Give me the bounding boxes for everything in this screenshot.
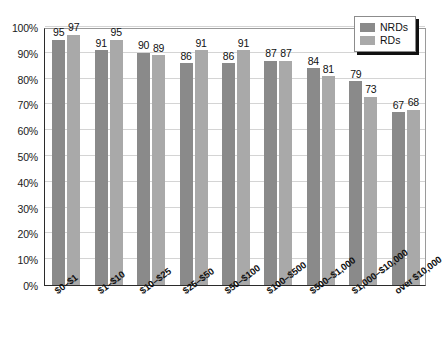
bar-value-label: 95 xyxy=(106,27,127,38)
bar-rds xyxy=(322,76,335,285)
bar-nrds xyxy=(307,68,320,285)
bar-rds xyxy=(67,35,80,285)
bar-group: 9089 xyxy=(137,29,165,285)
bar-rds xyxy=(237,50,250,285)
bar-value-label: 97 xyxy=(63,22,84,33)
bar-value-label: 91 xyxy=(191,38,212,49)
legend-label-rds: RDs xyxy=(380,35,400,46)
bar-nrds xyxy=(222,63,235,285)
legend-swatch-nrds-icon xyxy=(360,23,375,32)
y-axis: 0%10%20%30%40%50%60%70%80%90%100% xyxy=(0,28,42,286)
bar-group: 8481 xyxy=(307,29,335,285)
bar-value-label: 91 xyxy=(233,38,254,49)
bar-value-label: 87 xyxy=(275,48,296,59)
bar-rds xyxy=(152,55,165,285)
bar-value-label: 68 xyxy=(403,97,424,108)
bar-rds xyxy=(364,97,377,285)
legend-item-rds: RDs xyxy=(360,34,408,47)
bar-value-label: 73 xyxy=(360,84,381,95)
bar-value-label: 89 xyxy=(148,43,169,54)
y-axis-tick-label: 80% xyxy=(18,74,38,85)
bar-group: 8787 xyxy=(264,29,292,285)
bar-group: 9195 xyxy=(95,29,123,285)
plot-area: 959791959089869186918787848179736768 xyxy=(44,28,426,286)
y-axis-tick-label: 20% xyxy=(18,229,38,240)
y-axis-tick-label: 60% xyxy=(18,126,38,137)
y-axis-tick-label: 70% xyxy=(18,100,38,111)
bar-rds xyxy=(110,40,123,285)
bar-value-label: 81 xyxy=(318,64,339,75)
bar-nrds xyxy=(52,40,65,285)
y-axis-tick-label: 10% xyxy=(18,255,38,266)
bar-nrds xyxy=(264,61,277,285)
y-axis-tick-label: 40% xyxy=(18,178,38,189)
bar-nrds xyxy=(180,63,193,285)
y-axis-tick-label: 30% xyxy=(18,203,38,214)
bars-layer: 959791959089869186918787848179736768 xyxy=(45,29,425,285)
bar-rds xyxy=(279,61,292,285)
legend-swatch-rds-icon xyxy=(360,36,375,45)
y-axis-tick-label: 50% xyxy=(18,152,38,163)
bar-group: 8691 xyxy=(180,29,208,285)
bar-value-label: 86 xyxy=(176,51,197,62)
bar-nrds xyxy=(95,50,108,285)
bar-group: 6768 xyxy=(392,29,420,285)
y-axis-tick-label: 0% xyxy=(23,281,38,292)
x-axis: $0–$1$1–$10$10–$25$25–$50$50–$100$100–$5… xyxy=(44,288,426,346)
y-axis-tick-label: 100% xyxy=(12,23,38,34)
bar-group: 9597 xyxy=(52,29,80,285)
chart-legend: NRDs RDs xyxy=(354,16,416,52)
bar-value-label: 79 xyxy=(345,69,366,80)
y-axis-tick-label: 90% xyxy=(18,49,38,60)
bar-group: 7973 xyxy=(349,29,377,285)
bar-nrds xyxy=(137,53,150,285)
bar-rds xyxy=(407,110,420,285)
legend-item-nrds: NRDs xyxy=(360,21,408,34)
legend-label-nrds: NRDs xyxy=(380,22,408,33)
bar-group: 8691 xyxy=(222,29,250,285)
bar-value-label: 86 xyxy=(218,51,239,62)
bar-rds xyxy=(195,50,208,285)
bar-value-label: 91 xyxy=(91,38,112,49)
